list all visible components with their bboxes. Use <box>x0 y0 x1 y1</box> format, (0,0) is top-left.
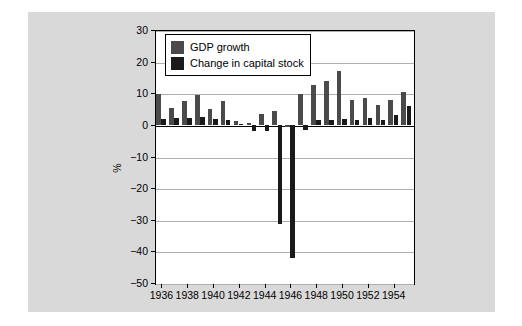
bar <box>259 114 264 124</box>
bar <box>200 117 205 125</box>
x-tick-mark <box>342 284 343 288</box>
legend-label-change-in-capital-stock: Change in capital stock <box>190 58 304 69</box>
bar <box>161 119 166 125</box>
x-tick-label: 1936 <box>150 289 173 301</box>
x-tick-label: 1940 <box>201 289 224 301</box>
bar <box>169 108 174 125</box>
bar <box>298 94 303 125</box>
bar <box>388 100 393 125</box>
legend-item-change-in-capital-stock: Change in capital stock <box>171 55 304 71</box>
bar <box>278 125 283 225</box>
legend-swatch-change-in-capital-stock <box>171 57 184 70</box>
legend-label-gdp-growth: GDP growth <box>190 42 250 53</box>
x-tick-label: 1954 <box>382 289 405 301</box>
gridline <box>156 158 414 159</box>
x-tick-mark <box>394 284 395 288</box>
bar <box>187 118 192 125</box>
bar <box>182 101 187 125</box>
bar <box>239 124 244 125</box>
x-tick-label: 1942 <box>227 289 250 301</box>
x-tick-mark <box>187 284 188 288</box>
bar <box>316 120 321 125</box>
x-tick-label: 1944 <box>253 289 276 301</box>
y-tick-mark <box>151 220 155 221</box>
x-tick-label: 1946 <box>279 289 302 301</box>
bar <box>272 111 277 125</box>
bar <box>208 109 213 125</box>
gridline <box>156 252 414 253</box>
bar <box>252 125 257 131</box>
bar <box>407 106 412 125</box>
bar <box>226 120 231 125</box>
gridline <box>156 221 414 222</box>
y-tick-mark <box>151 62 155 63</box>
gridline <box>156 284 414 285</box>
y-tick-label: −40 <box>130 245 148 257</box>
figure-panel: 3020100−10−20−30−40−50%19361938194019421… <box>28 12 495 312</box>
bar <box>368 118 373 125</box>
bar <box>303 125 308 130</box>
x-tick-mark <box>161 284 162 288</box>
bar <box>174 118 179 125</box>
bar <box>213 119 218 124</box>
bar <box>401 92 406 125</box>
y-tick-label: 30 <box>136 24 148 36</box>
legend-item-gdp-growth: GDP growth <box>171 39 304 55</box>
y-tick-label: 10 <box>136 87 148 99</box>
y-tick-label: 20 <box>136 56 148 68</box>
y-tick-label: −50 <box>130 277 148 289</box>
x-tick-label: 1952 <box>356 289 379 301</box>
bar <box>285 125 290 128</box>
y-tick-label: −20 <box>130 182 148 194</box>
x-tick-label: 1938 <box>176 289 199 301</box>
x-tick-mark <box>290 284 291 288</box>
bar <box>394 115 399 125</box>
bar <box>195 95 200 124</box>
bar <box>221 101 226 124</box>
x-tick-label: 1950 <box>330 289 353 301</box>
bar <box>342 119 347 125</box>
bar <box>376 105 381 125</box>
y-tick-label: 0 <box>142 119 148 131</box>
x-tick-label: 1948 <box>305 289 328 301</box>
bar <box>337 71 342 125</box>
y-tick-mark <box>151 125 155 126</box>
y-tick-label: −30 <box>130 214 148 226</box>
y-tick-mark <box>151 30 155 31</box>
x-tick-mark <box>265 284 266 288</box>
chart-legend: GDP growth Change in capital stock <box>165 34 311 76</box>
bar <box>324 81 329 125</box>
bar <box>355 120 360 125</box>
y-tick-mark <box>151 93 155 94</box>
legend-swatch-gdp-growth <box>171 41 184 54</box>
bar <box>265 125 270 131</box>
gridline <box>156 189 414 190</box>
bar <box>381 120 386 125</box>
bar <box>311 85 316 125</box>
y-tick-mark <box>151 283 155 284</box>
bar <box>329 120 334 124</box>
bar <box>290 125 295 258</box>
bar <box>350 100 355 125</box>
x-tick-mark <box>213 284 214 288</box>
y-axis-label: % <box>111 138 123 198</box>
y-tick-mark <box>151 251 155 252</box>
bar <box>234 121 239 125</box>
y-tick-mark <box>151 188 155 189</box>
bar <box>363 98 368 125</box>
x-tick-mark <box>239 284 240 288</box>
bar <box>156 94 161 125</box>
x-tick-mark <box>368 284 369 288</box>
bar <box>247 123 252 125</box>
y-tick-label: −10 <box>130 151 148 163</box>
y-tick-mark <box>151 157 155 158</box>
gridline <box>156 31 414 32</box>
x-tick-mark <box>316 284 317 288</box>
